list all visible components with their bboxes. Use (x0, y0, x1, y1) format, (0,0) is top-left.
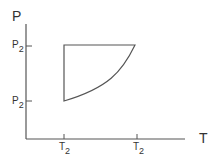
y-axis-label: P (12, 8, 21, 24)
pt-diagram: P T P2 P2 T2 T2 (0, 0, 218, 160)
x-tick-label-left: T2 (59, 141, 70, 156)
x-tick-label-right: T2 (133, 141, 144, 156)
process-cycle (64, 45, 135, 101)
y-tick-label-lower: P2 (12, 95, 24, 110)
y-tick-label-upper: P2 (12, 39, 24, 54)
x-axis-label: T (199, 130, 208, 146)
